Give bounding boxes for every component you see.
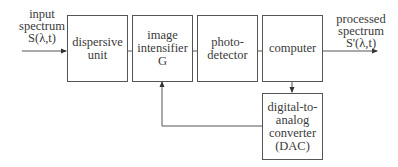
feedback-dac-to-intensifier-arrow [162,82,262,126]
output-spectrum-label: processed spectrum S'(λ,t) [326,13,396,49]
block-dac: digital-to- analog converter (DAC) [262,93,323,160]
block-computer: computer [262,15,323,82]
block-image-intensifier: image intensifier G [132,15,193,82]
block-photodetector: photo- detector [197,15,258,82]
input-spectrum-label: input spectrum S(λ,t) [12,8,72,44]
block-dispersive-unit: dispersive unit [67,15,128,82]
